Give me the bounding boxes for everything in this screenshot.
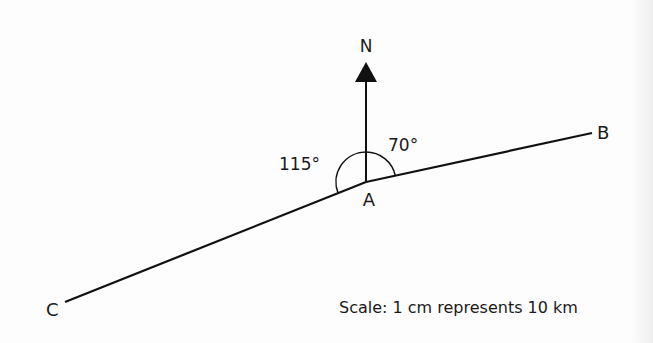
point-label-C: C [46,299,59,320]
point-label-B: B [597,122,609,143]
angle-label-115: 115° [279,154,320,174]
north-label: N [360,36,373,56]
line-AC [65,182,366,302]
scale-text: Scale: 1 cm represents 10 km [339,298,578,317]
point-label-A: A [363,189,376,210]
north-arrow-icon [355,62,377,82]
bearing-diagram: N 70° 115° A B C Scale: 1 cm represents … [0,0,653,343]
angle-arc-70 [366,152,395,176]
angle-label-70: 70° [388,135,418,155]
